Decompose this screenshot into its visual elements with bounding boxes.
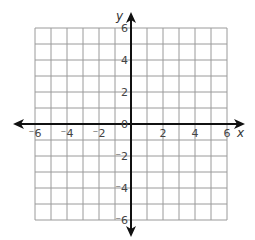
x-tick-label: ⁻2 (93, 127, 106, 140)
axes (13, 12, 245, 237)
y-tick-label: ⁻2 (115, 150, 128, 163)
y-tick-label: 4 (121, 54, 128, 67)
x-tick-label: 4 (192, 127, 199, 140)
x-tick-label: 2 (160, 127, 167, 140)
x-tick-label: ⁻4 (61, 127, 74, 140)
y-axis-label: y (115, 9, 124, 23)
coordinate-plane: ⁻6⁻4⁻2246642⁻2⁻4⁻6 y x 0 (0, 0, 255, 240)
origin-label: 0 (121, 118, 128, 131)
x-tick-label: ⁻6 (29, 127, 42, 140)
y-tick-label: 6 (121, 22, 128, 35)
y-tick-label: ⁻4 (115, 182, 128, 195)
y-tick-label: 2 (121, 86, 128, 99)
x-tick-label: 6 (224, 127, 231, 140)
y-tick-label: ⁻6 (115, 214, 128, 227)
x-axis-label: x (236, 126, 245, 140)
